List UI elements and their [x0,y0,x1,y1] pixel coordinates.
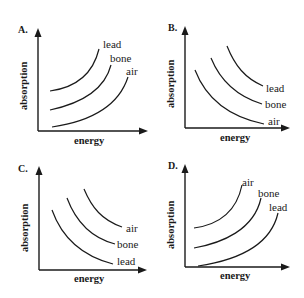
y-axis-label: absorption [18,61,29,110]
curve-bone [67,198,115,244]
curve-air [195,70,264,124]
curve-label-air: air [242,176,254,188]
y-axis-arrow-icon [182,164,189,173]
y-axis-arrow-icon [182,26,189,35]
curve-label-lead: lead [266,82,285,94]
curve-label-lead: lead [117,255,136,267]
panel-d: D. energy absorption air bone lead [165,160,290,281]
figure-canvas: A. energy absorption lead bone air B. en… [0,0,304,298]
curve-label-air: air [126,65,138,77]
x-axis-label: energy [74,273,105,284]
y-axis-label: absorption [19,203,30,252]
curve-air [52,77,128,127]
curve-air [194,185,242,228]
curve-lead [52,210,113,264]
y-axis-arrow-icon [35,28,42,37]
x-axis-arrow-icon [138,267,147,274]
x-axis-label: energy [74,135,105,146]
x-axis-arrow-icon [281,125,290,132]
curve-label-bone: bone [110,52,132,64]
x-axis-arrow-icon [281,264,290,271]
curve-lead [50,49,99,91]
panel-label: A. [18,24,28,35]
x-axis-arrow-icon [139,128,148,135]
panel-c: C. energy absorption air bone lead [18,163,147,284]
curve-label-air: air [126,222,138,234]
curve-label-bone: bone [265,98,287,110]
curve-label-bone: bone [258,187,280,199]
panel-a: A. energy absorption lead bone air [18,24,148,146]
curve-lead [198,213,278,266]
curve-label-bone: bone [117,238,139,250]
panel-b: B. energy absorption lead bone air [165,22,290,143]
y-axis-label: absorption [165,59,176,108]
panel-label: D. [168,160,178,171]
curve-lead [227,46,263,86]
curve-bone [194,198,261,248]
y-axis-arrow-icon [36,166,43,175]
curve-label-lead: lead [103,38,122,50]
panel-label: B. [168,22,178,33]
curve-air [84,189,122,227]
x-axis-label: energy [220,270,251,281]
curve-label-air: air [268,115,280,127]
curve-bone [50,65,111,110]
y-axis-label: absorption [165,200,176,249]
x-axis-label: energy [220,132,251,143]
panel-label: C. [18,163,28,174]
curve-label-lead: lead [269,201,288,213]
